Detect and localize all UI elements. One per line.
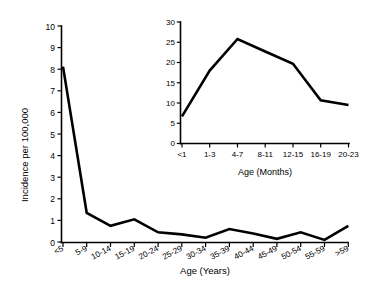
main-y-tick-label: 3 <box>50 173 55 183</box>
inset-x-tick-label: <1 <box>177 150 187 159</box>
inset-y-tick-label: 25 <box>166 38 175 47</box>
main-x-tick-label: 10-14 <box>90 244 113 262</box>
main-x-tick-label: 40-44 <box>232 244 255 262</box>
main-x-tick-label: 15-19 <box>114 244 137 262</box>
inset-chart: 30 25 20 15 10 5 0 <box>166 18 359 177</box>
main-x-tick-label: 55-59 <box>304 244 327 262</box>
main-y-tick-label: 5 <box>50 130 55 140</box>
main-x-tick-label: 25-29 <box>161 244 184 262</box>
inset-y-tick-label: 15 <box>166 79 175 88</box>
inset-x-tick-label: 4-7 <box>232 150 244 159</box>
main-chart: Incidence per 100,000 10 9 8 7 6 5 4 3 2… <box>19 22 351 277</box>
main-y-tick-label: 9 <box>50 43 55 53</box>
main-y-tick-label: 4 <box>50 151 55 161</box>
main-y-tick-label: 6 <box>50 108 55 118</box>
main-x-tick-label: 20-24 <box>137 244 160 262</box>
inset-x-tick-label: 16-19 <box>310 150 331 159</box>
inset-x-tick-labels: <1 1-3 4-7 8-11 12-15 16-19 20-23 <box>177 150 359 159</box>
main-x-axis-title: Age (Years) <box>180 265 230 276</box>
inset-x-tick-label: 1-3 <box>204 150 216 159</box>
inset-y-tick-label: 0 <box>171 139 176 148</box>
inset-y-tick-label: 20 <box>166 58 175 67</box>
chart-svg: Incidence per 100,000 10 9 8 7 6 5 4 3 2… <box>0 0 369 291</box>
inset-x-tick-label: 12-15 <box>283 150 304 159</box>
main-x-tick-label: 50-54 <box>280 244 303 262</box>
main-x-tick-label: 30-34 <box>185 244 208 262</box>
main-y-tick-label: 2 <box>50 194 55 204</box>
inset-x-axis-title: Age (Months) <box>238 167 292 177</box>
main-y-axis-title: Incidence per 100,000 <box>19 108 30 202</box>
main-x-tick-label: 45-49 <box>256 244 279 262</box>
figure-container: Incidence per 100,000 10 9 8 7 6 5 4 3 2… <box>0 0 369 291</box>
main-x-tick-label: 35-39 <box>209 244 232 262</box>
main-y-tick-label: 10 <box>46 22 56 32</box>
inset-data-series <box>182 39 349 116</box>
inset-x-tick-label: 20-23 <box>338 150 359 159</box>
inset-y-tick-label: 30 <box>166 18 175 27</box>
main-y-tick-label: 1 <box>50 216 55 226</box>
main-x-tick-labels: <5 5-9 10-14 15-19 20-24 25-29 30-34 35-… <box>52 244 350 262</box>
main-y-tick-label: 7 <box>50 86 55 96</box>
inset-x-tick-label: 8-11 <box>257 150 273 159</box>
inset-y-tick-labels: 30 25 20 15 10 5 0 <box>166 18 175 148</box>
main-y-tick-labels: 10 9 8 7 6 5 4 3 2 1 0 <box>46 22 56 248</box>
inset-y-tick-label: 10 <box>166 99 175 108</box>
inset-y-tick-label: 5 <box>171 119 176 128</box>
main-y-tick-label: 0 <box>50 238 55 248</box>
main-y-tick-label: 8 <box>50 65 55 75</box>
